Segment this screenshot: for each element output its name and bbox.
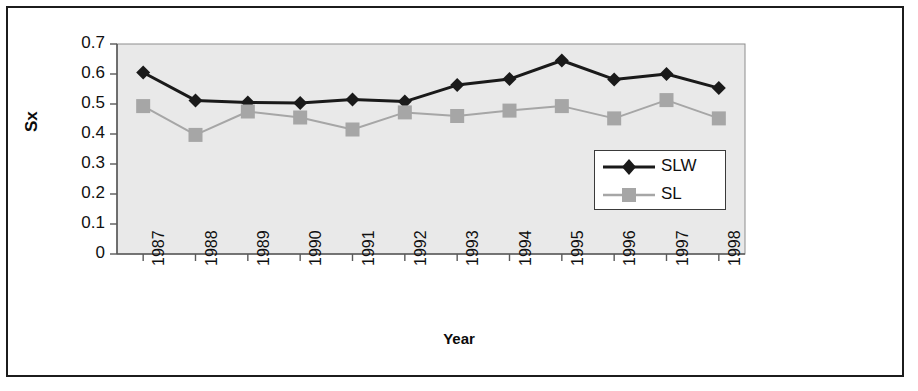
y-axis-tick-label: 0.3	[27, 153, 105, 173]
legend-label-sl: SL	[661, 184, 682, 204]
chart-figure: 00.10.20.30.40.50.60.7 19871988198919901…	[0, 0, 918, 391]
x-axis-title: Year	[0, 330, 918, 347]
data-point-square	[189, 128, 203, 142]
x-axis-tick-label: 1990	[307, 230, 325, 266]
data-point-square	[398, 105, 412, 119]
x-axis-tick-label: 1998	[726, 230, 744, 266]
data-point-square	[450, 109, 464, 123]
y-axis-title: Sx	[22, 111, 42, 132]
y-axis-ticks	[110, 44, 117, 254]
chart-legend: SLW SL	[594, 150, 726, 210]
data-point-square	[660, 93, 674, 107]
legend-marker-square-icon	[601, 180, 657, 210]
x-axis-tick-label: 1995	[569, 230, 587, 266]
data-point-square	[555, 99, 569, 113]
legend-entry-sl: SL	[595, 180, 727, 210]
x-axis-tick-label: 1987	[150, 230, 168, 266]
x-axis-tick-label: 1994	[517, 230, 535, 266]
y-axis-tick-label: 0.1	[27, 213, 105, 233]
legend-label-slw: SLW	[661, 156, 697, 176]
data-point-square	[136, 99, 150, 113]
x-axis-tick-label: 1997	[674, 230, 692, 266]
data-point-square	[346, 123, 360, 137]
x-axis-tick-label: 1996	[621, 230, 639, 266]
y-axis-tick-label: 0	[27, 243, 105, 263]
x-axis-tick-label: 1992	[412, 230, 430, 266]
x-axis-tick-label: 1989	[255, 230, 273, 266]
legend-entry-slw: SLW	[595, 152, 727, 182]
data-point-square	[607, 111, 621, 125]
y-axis-tick-label: 0.7	[27, 33, 105, 53]
data-point-square	[712, 111, 726, 125]
y-axis-tick-label: 0.2	[27, 183, 105, 203]
legend-marker-diamond-icon	[601, 152, 657, 182]
y-axis-tick-label: 0.5	[27, 93, 105, 113]
data-point-square	[241, 105, 255, 119]
y-axis-tick-label: 0.6	[27, 63, 105, 83]
x-axis-tick-label: 1988	[203, 230, 221, 266]
data-point-square	[503, 104, 517, 118]
data-point-square	[293, 111, 307, 125]
x-axis-tick-label: 1991	[360, 230, 378, 266]
x-axis-tick-label: 1993	[464, 230, 482, 266]
